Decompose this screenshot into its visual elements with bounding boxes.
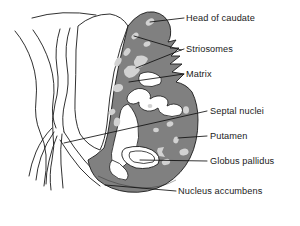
cortex-top-arc	[32, 13, 96, 18]
label-nucleus-accumbens: Nucleus accumbens	[178, 187, 262, 196]
label-septal-nuclei: Septal nuclei	[210, 107, 264, 116]
label-matrix: Matrix	[186, 70, 212, 79]
label-putamen: Putamen	[210, 132, 247, 141]
gyrus-inner-right	[63, 28, 70, 132]
sulcus-branch-a	[29, 128, 52, 176]
label-globus-pallidus: Globus pallidus	[210, 157, 274, 166]
sulcus-branch-b	[36, 132, 54, 180]
gyrus-outer-left	[15, 31, 46, 186]
leader-striosomes-stem	[181, 49, 184, 50]
striosome-patch	[148, 104, 153, 108]
gyrus-midline	[50, 29, 60, 190]
striosome-patch	[153, 128, 159, 132]
sulcus-branch-c	[46, 136, 57, 184]
label-head-of-caudate: Head of caudate	[186, 14, 255, 23]
figure-canvas: Head of caudate Striosomes Matrix Septal…	[0, 0, 300, 226]
gyrus-inner-left	[33, 30, 56, 128]
label-striosomes: Striosomes	[186, 45, 233, 54]
striosome-patch	[183, 106, 189, 114]
